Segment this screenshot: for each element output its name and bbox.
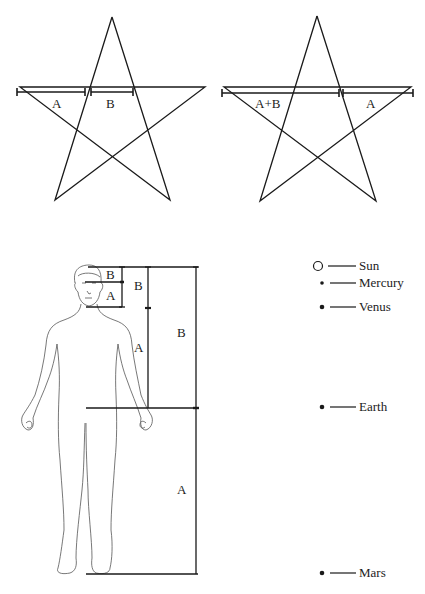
planet-earth: Earth	[320, 399, 388, 414]
sun-hollow-circle-icon	[314, 262, 323, 271]
pentagram-right-measure	[222, 89, 413, 97]
label-head-b: B	[106, 267, 115, 282]
pentagram-left-measure	[17, 88, 133, 96]
label-full-b: B	[177, 325, 186, 340]
planet-mars: Mars	[320, 565, 386, 580]
label-a: A	[366, 96, 376, 111]
mars-dot-icon	[320, 571, 325, 576]
planet-label: Mars	[359, 565, 386, 580]
planet-sun: Sun	[314, 258, 380, 273]
planet-list: Sun Mercury Venus Earth Mars	[314, 258, 405, 580]
planet-label: Venus	[359, 299, 391, 314]
planet-label: Sun	[359, 258, 380, 273]
body-left	[22, 304, 85, 574]
label-aplusb: A+B	[255, 96, 281, 111]
golden-ratio-diagram: A B A+B A	[0, 0, 425, 594]
label-full-a: A	[177, 482, 187, 497]
pentagram-right	[224, 16, 411, 201]
face-features	[82, 283, 96, 298]
planet-label: Earth	[359, 399, 388, 414]
venus-dot-icon	[320, 305, 325, 310]
earth-dot-icon	[320, 405, 325, 410]
label-upper-b: B	[134, 278, 143, 293]
label-upper-a: A	[134, 340, 144, 355]
pentagram-right-outline	[224, 16, 411, 201]
human-figure	[22, 265, 153, 574]
planet-label: Mercury	[359, 275, 404, 290]
planet-mercury: Mercury	[320, 275, 404, 290]
label-a: A	[52, 96, 62, 111]
label-head-a: A	[106, 288, 116, 303]
mercury-dot-icon	[320, 281, 324, 285]
human-measure	[85, 267, 199, 574]
label-b: B	[106, 96, 115, 111]
head	[74, 265, 102, 306]
planet-venus: Venus	[320, 299, 391, 314]
hairline	[78, 273, 100, 277]
